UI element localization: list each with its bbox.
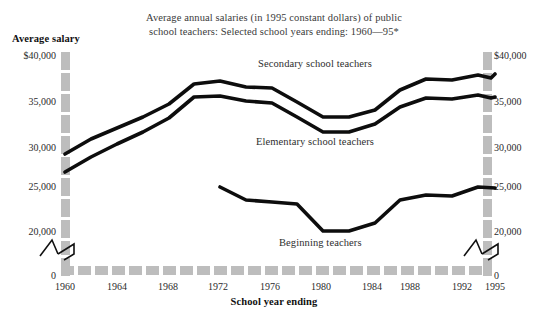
series-line-secondary	[65, 74, 495, 154]
x-axis-band	[61, 266, 492, 275]
series-line-beginning	[220, 187, 495, 231]
axis-break-right-icon	[464, 240, 498, 260]
y-axis-band-right	[483, 52, 492, 276]
plot-area	[0, 0, 548, 318]
salary-line-chart: Average annual salaries (in 1995 constan…	[0, 0, 548, 318]
y-axis-band-left	[61, 52, 70, 276]
series-line-elementary	[65, 95, 495, 172]
